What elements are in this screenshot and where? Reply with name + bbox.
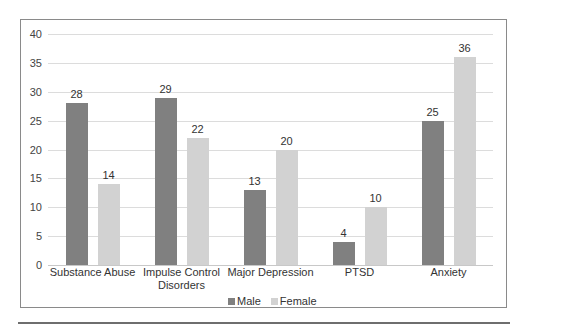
bar-female — [365, 207, 387, 265]
value-label-male: 4 — [329, 227, 359, 239]
value-label-male: 13 — [240, 175, 270, 187]
gridline — [48, 92, 493, 93]
y-tick-label: 15 — [20, 172, 42, 184]
bar-male — [155, 98, 177, 265]
bar-female — [98, 184, 120, 265]
y-tick-label: 40 — [20, 28, 42, 40]
legend: Male Female — [228, 295, 317, 307]
category-label: Anxiety — [394, 266, 504, 279]
gridline — [48, 34, 493, 35]
bar-male — [333, 242, 355, 265]
value-label-female: 22 — [183, 123, 213, 135]
legend-label-female: Female — [280, 295, 317, 307]
value-label-male: 25 — [418, 106, 448, 118]
value-label-female: 14 — [94, 169, 124, 181]
page-divider — [18, 322, 510, 324]
bar-male — [422, 121, 444, 265]
legend-item-female: Female — [271, 295, 317, 307]
y-tick-label: 35 — [20, 57, 42, 69]
y-tick-label: 25 — [20, 115, 42, 127]
gridline — [48, 63, 493, 64]
legend-item-male: Male — [228, 295, 261, 307]
bar-male — [66, 103, 88, 265]
bar-female — [276, 150, 298, 266]
value-label-female: 36 — [450, 42, 480, 54]
legend-label-male: Male — [237, 295, 261, 307]
y-tick-label: 20 — [20, 144, 42, 156]
value-label-female: 20 — [272, 135, 302, 147]
male-swatch-icon — [228, 298, 235, 305]
value-label-male: 29 — [151, 83, 181, 95]
y-tick-label: 5 — [20, 230, 42, 242]
bar-male — [244, 190, 266, 265]
value-label-male: 28 — [62, 88, 92, 100]
y-tick-label: 30 — [20, 86, 42, 98]
female-swatch-icon — [271, 298, 278, 305]
value-label-female: 10 — [361, 192, 391, 204]
bar-female — [187, 138, 209, 265]
bar-female — [454, 57, 476, 265]
y-tick-label: 10 — [20, 201, 42, 213]
